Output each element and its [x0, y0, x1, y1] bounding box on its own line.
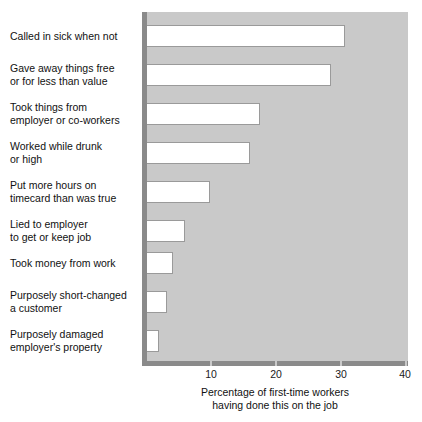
bar-lied-to-employer[interactable]: [146, 220, 185, 242]
bar-worked-while-drunk[interactable]: [146, 142, 250, 164]
bar-put-more-hours[interactable]: [146, 181, 210, 203]
category-label-short-changed: Purposely short-changed a customer: [10, 289, 138, 314]
x-tick-20: [275, 361, 277, 366]
bar-short-changed[interactable]: [146, 291, 167, 313]
x-tick-label-10: 10: [205, 368, 217, 380]
x-tick-40: [405, 361, 407, 366]
x-axis-title: Percentage of first-time workers having …: [142, 386, 408, 412]
x-tick-label-30: 30: [335, 368, 347, 380]
bar-chart: 10 20 30 40 Called in sick when not Gave…: [0, 0, 422, 422]
x-tick-30: [340, 361, 342, 366]
category-label-took-things: Took things from employer or co-workers: [10, 101, 138, 126]
category-label-called-in-sick: Called in sick when not: [10, 30, 138, 43]
x-tick-label-20: 20: [270, 368, 282, 380]
bar-took-things[interactable]: [146, 103, 260, 125]
x-tick-label-40: 40: [399, 368, 411, 380]
category-label-put-more-hours: Put more hours on timecard than was true: [10, 179, 138, 204]
bar-called-in-sick[interactable]: [146, 25, 345, 47]
bar-gave-away-things-free[interactable]: [146, 64, 331, 86]
bar-took-money[interactable]: [146, 252, 173, 274]
bar-purposely-damaged[interactable]: [146, 330, 159, 352]
category-label-purposely-damaged: Purposely damaged employer's property: [10, 328, 138, 353]
category-label-worked-while-drunk: Worked while drunk or high: [10, 140, 138, 165]
category-label-took-money: Took money from work: [10, 257, 138, 270]
category-label-lied-to-employer: Lied to employer to get or keep job: [10, 218, 138, 243]
y-axis-line: [142, 12, 147, 366]
category-label-gave-away-things-free: Gave away things free or for less than v…: [10, 62, 138, 87]
x-tick-10: [210, 361, 212, 366]
